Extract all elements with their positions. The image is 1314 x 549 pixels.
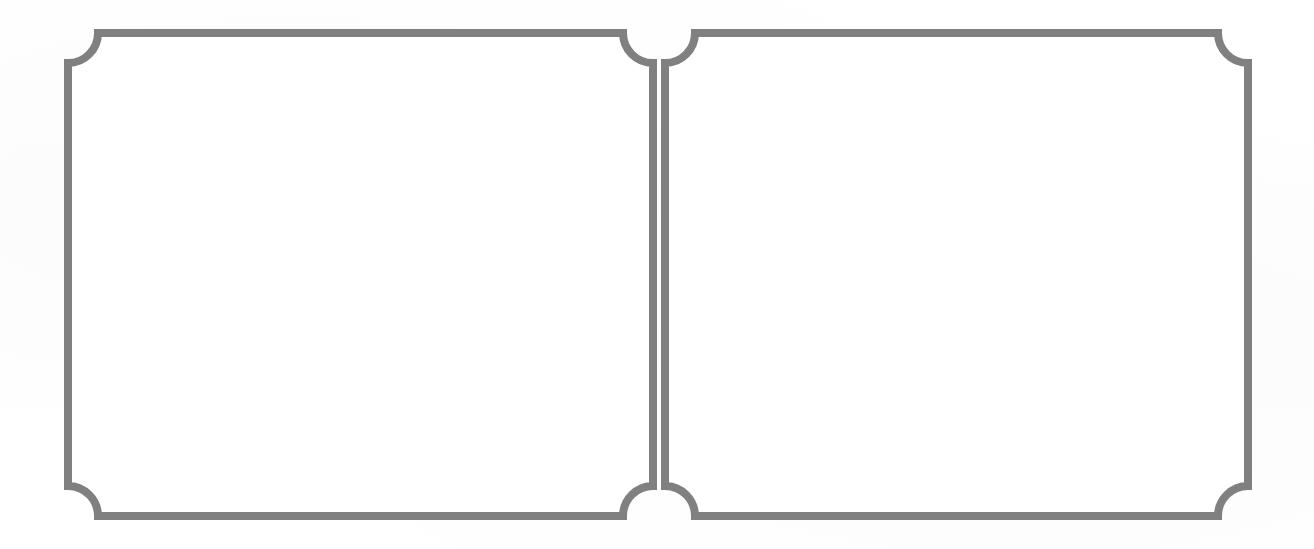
right-panel-interior — [665, 33, 1248, 516]
left-panel-interior — [68, 33, 653, 516]
scanned-page — [0, 0, 1314, 549]
frames-layer — [0, 0, 1314, 549]
frames-svg — [0, 0, 1314, 549]
left-panel[interactable] — [68, 33, 653, 516]
right-panel[interactable] — [665, 33, 1248, 516]
